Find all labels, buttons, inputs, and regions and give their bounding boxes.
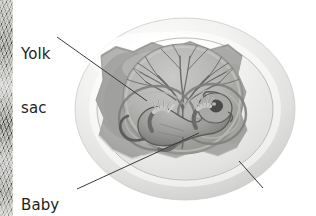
- reptile-egg-figure: Yolk sac Baby reptile Shell: [0, 0, 316, 216]
- label-baby-reptile: Baby reptile: [21, 160, 70, 216]
- label-yolk-sac-line1: Yolk: [21, 45, 51, 63]
- label-yolk-sac: Yolk sac: [21, 9, 51, 153]
- label-yolk-sac-line2: sac: [21, 99, 51, 117]
- label-shell: Shell: [265, 178, 302, 216]
- label-baby-reptile-line1: Baby: [21, 196, 70, 214]
- label-shell-line1: Shell: [265, 214, 302, 216]
- embryo-eye-highlight: [212, 102, 216, 106]
